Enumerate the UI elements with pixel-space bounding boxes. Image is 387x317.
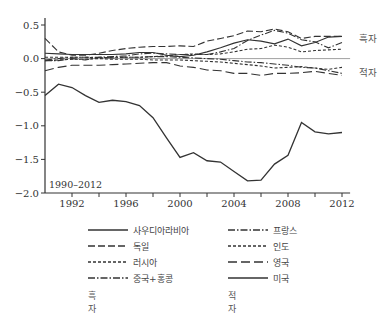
legend-label: 미국	[273, 272, 289, 285]
legend-item: 미국	[228, 272, 289, 284]
legend-swatch	[88, 275, 128, 281]
legend-item: 프랑스	[228, 224, 297, 236]
y-tick-label: −0.5	[15, 87, 39, 98]
legend-swatch	[228, 243, 268, 249]
legend-item: 독일	[88, 240, 149, 252]
series-line	[45, 29, 342, 55]
y-tick-label: −2.0	[15, 188, 39, 199]
legend-swatch	[228, 259, 268, 265]
legend-item: 영국	[228, 256, 289, 268]
y-tick-label: 0.0	[23, 53, 39, 64]
series-line	[45, 84, 342, 181]
legend-label: 프랑스	[273, 224, 297, 237]
x-tick-label: 2008	[275, 198, 300, 209]
x-tick-label: 1992	[59, 198, 84, 209]
y-tick-label: 0.5	[23, 20, 39, 31]
series-lines	[45, 29, 342, 181]
legend-item: 인도	[228, 240, 289, 252]
legend-swatch	[88, 243, 128, 249]
legend-label: 사우디아라비아	[133, 224, 189, 237]
annotation-label: 흑자	[359, 33, 377, 44]
legend-swatch	[228, 227, 268, 233]
x-tick-label: 2000	[167, 198, 192, 209]
legend-item: 사우디아라비아	[88, 224, 189, 236]
series-line	[45, 30, 342, 60]
legend-label: 영국	[273, 256, 289, 269]
y-tick-label: −1.5	[15, 154, 39, 165]
period-label: 1990–2012	[49, 179, 102, 190]
series-line	[45, 45, 342, 58]
legend-group-label: 흑자	[88, 289, 96, 315]
legend-swatch	[228, 275, 268, 281]
legend-label: 인도	[273, 240, 289, 253]
legend-item: 러시아	[88, 256, 157, 268]
annotation-label: 적자	[359, 67, 377, 78]
legend-item: 중국+홍콩	[88, 272, 173, 284]
legend-swatch	[88, 227, 128, 233]
legend-label: 중국+홍콩	[133, 272, 173, 285]
line-chart: 0.50.0−0.5−1.0−1.5−2.0199219962000200420…	[0, 0, 387, 317]
y-tick-label: −1.0	[15, 120, 39, 131]
legend-label: 독일	[133, 240, 149, 253]
x-tick-label: 1996	[113, 198, 138, 209]
x-tick-label: 2012	[329, 198, 354, 209]
series-line	[45, 63, 342, 76]
legend-label: 러시아	[133, 256, 157, 269]
x-tick-label: 2004	[221, 198, 246, 209]
legend-group-label: 적자	[228, 289, 236, 315]
legend-swatch	[88, 259, 128, 265]
axis-labels: 0.50.0−0.5−1.0−1.5−2.0199219962000200420…	[15, 20, 377, 210]
